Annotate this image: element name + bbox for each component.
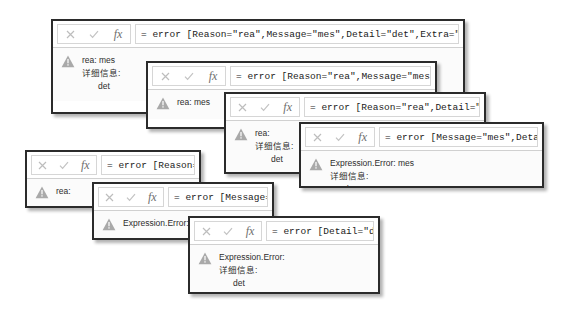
formula-input[interactable]: = error [Message="mes",Detail="det"] [379,127,538,147]
error-message-area: Expression.Error: 详细信息: det [190,245,378,294]
check-icon[interactable] [178,67,200,85]
check-icon[interactable] [53,156,74,174]
fx-icon[interactable]: fx [202,67,224,85]
formula-bar: fx = error [Reason="rea",Message="mes",D… [53,21,463,48]
error-line-detail-value: det [219,277,372,290]
close-icon[interactable] [195,222,217,240]
warning-triangle-icon [156,97,170,111]
warning-triangle-icon [234,128,248,142]
fx-icon[interactable]: fx [75,156,96,174]
error-line-detail-label: 详细信息: [219,264,372,277]
warning-triangle-icon [309,158,323,172]
close-icon[interactable] [231,98,253,116]
formula-button-group: fx [194,221,262,241]
warning-triangle-icon [61,55,75,69]
formula-bar: fx = error [Message="mes"] [94,184,272,211]
warning-triangle-icon [198,252,212,266]
fx-icon[interactable]: fx [277,98,299,116]
formula-error-panel: fx = error [Message="mes",Detail="det"] … [299,122,544,188]
warning-triangle-icon [102,218,116,232]
formula-input[interactable]: = error [Message="mes"] [168,187,268,207]
close-icon[interactable] [32,156,53,174]
check-icon[interactable] [217,222,239,240]
formula-input[interactable]: = error [Detail="det"] [266,221,374,241]
close-icon[interactable] [99,188,120,206]
fx-icon[interactable]: fx [107,25,129,43]
error-message-area: Expression.Error: mes 详细信息: det [301,151,542,188]
close-icon[interactable] [306,128,328,146]
formula-bar: fx = error [Detail="det"] [190,218,378,245]
error-line-primary: Expression.Error: mes [330,157,536,170]
formula-input[interactable]: = error [Reason="rea",Message="mes"] [230,66,431,86]
formula-input[interactable]: = error [Reason="rea",Message="mes",Deta… [135,24,459,44]
formula-button-group: fx [57,24,131,44]
formula-button-group: fx [305,127,375,147]
fx-icon[interactable]: fx [142,188,163,206]
formula-button-group: fx [31,155,97,175]
formula-bar: fx = error [Reason="rea",Detail="det"] [226,94,484,121]
formula-bar: fx = error [Reason="rea",Message="mes"] [148,63,435,90]
error-line-detail-value: det [330,183,536,188]
formula-button-group: fx [98,187,164,207]
check-icon[interactable] [254,98,276,116]
formula-bar: fx = error [Reason="rea"] [27,152,199,179]
screenshot-canvas: fx = error [Reason="rea",Message="mes",D… [0,0,563,316]
error-lines: Expression.Error: 详细信息: det [219,251,372,290]
formula-input[interactable]: = error [Reason="rea"] [101,155,195,175]
formula-input[interactable]: = error [Reason="rea",Detail="det"] [304,97,480,117]
formula-bar: fx = error [Message="mes",Detail="det"] [301,124,542,151]
check-icon[interactable] [83,25,105,43]
close-icon[interactable] [154,67,176,85]
close-icon[interactable] [59,25,81,43]
formula-button-group: fx [152,66,226,86]
check-icon[interactable] [120,188,141,206]
formula-button-group: fx [230,97,300,117]
warning-triangle-icon [35,186,49,200]
error-line-primary: Expression.Error: [219,251,372,264]
formula-error-panel: fx = error [Detail="det"] Expression.Err… [188,216,380,294]
fx-icon[interactable]: fx [352,128,374,146]
check-icon[interactable] [329,128,351,146]
fx-icon[interactable]: fx [239,222,261,240]
error-line-detail-label: 详细信息: [330,170,536,183]
error-lines: Expression.Error: mes 详细信息: det [330,157,536,188]
